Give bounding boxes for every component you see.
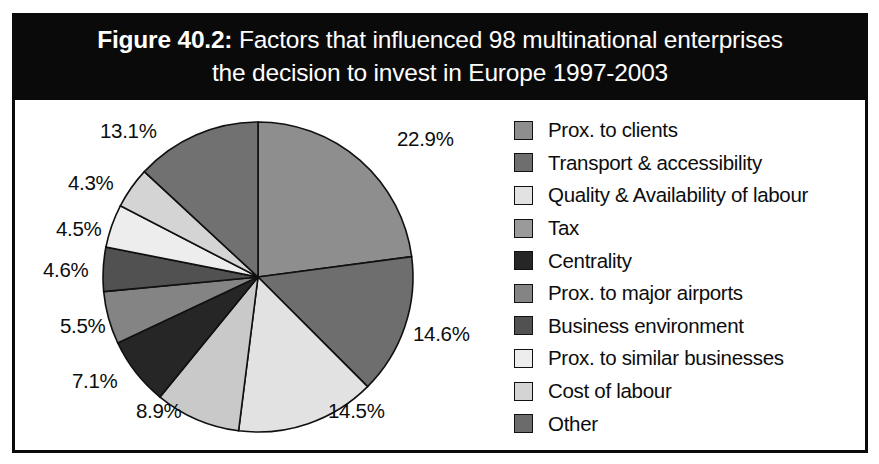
slice-value-label-other: 13.1% [100, 119, 157, 143]
legend-item-label: Prox. to major airports [548, 281, 743, 305]
slice-value-label-quality-availability-labour: 14.5% [328, 399, 385, 423]
pie-chart-area: 22.9% 14.6% 14.5% 8.9% 7.1% 5.5% 4.6% 4.… [12, 100, 512, 453]
figure-root: Figure 40.2: Factors that influenced 98 … [0, 0, 879, 464]
chart-legend: Prox. to clientsTransport & accessibilit… [514, 114, 864, 440]
legend-swatch-icon [514, 382, 533, 401]
figure-title-bar: Figure 40.2: Factors that influenced 98 … [12, 13, 868, 100]
figure-number: Figure 40.2: [97, 26, 232, 53]
legend-item-label: Other [548, 412, 598, 436]
legend-item-label: Prox. to similar businesses [548, 346, 784, 370]
legend-swatch-icon [514, 219, 533, 238]
legend-swatch-icon [514, 186, 533, 205]
legend-item-label: Tax [548, 216, 579, 240]
slice-value-label-transport-accessibility: 14.6% [413, 322, 470, 346]
legend-item: Prox. to clients [514, 114, 864, 147]
legend-swatch-icon [514, 251, 533, 270]
legend-item-label: Business environment [548, 314, 744, 338]
legend-item: Tax [514, 212, 864, 245]
legend-item-label: Cost of labour [548, 379, 671, 403]
legend-item-label: Centrality [548, 249, 632, 273]
legend-item-label: Quality & Availability of labour [548, 183, 808, 207]
legend-swatch-icon [514, 316, 533, 335]
legend-swatch-icon [514, 349, 533, 368]
legend-item-label: Prox. to clients [548, 118, 678, 142]
legend-item: Centrality [514, 244, 864, 277]
legend-item: Cost of labour [514, 375, 864, 408]
slice-value-label-business-environment: 4.6% [43, 258, 89, 282]
legend-swatch-icon [514, 414, 533, 433]
chart-body: 22.9% 14.6% 14.5% 8.9% 7.1% 5.5% 4.6% 4.… [12, 100, 868, 453]
slice-value-label-prox-to-clients: 22.9% [397, 127, 454, 151]
legend-item: Transport & accessibility [514, 147, 864, 180]
legend-item: Prox. to similar businesses [514, 342, 864, 375]
pie-slice [258, 122, 412, 277]
legend-swatch-icon [514, 153, 533, 172]
slice-value-label-tax: 8.9% [136, 399, 182, 423]
legend-item: Other [514, 407, 864, 440]
figure-title-text-1: Factors that influenced 98 multinational… [239, 26, 783, 53]
legend-swatch-icon [514, 121, 533, 140]
legend-swatch-icon [514, 284, 533, 303]
slice-value-label-centrality: 7.1% [72, 369, 118, 393]
legend-item-label: Transport & accessibility [548, 151, 762, 175]
slice-value-label-prox-major-airports: 5.5% [60, 314, 106, 338]
slice-value-label-cost-of-labour: 4.3% [68, 171, 114, 195]
figure-title-line-1: Figure 40.2: Factors that influenced 98 … [97, 23, 783, 56]
legend-item: Prox. to major airports [514, 277, 864, 310]
figure-title-line-2: the decision to invest in Europe 1997-20… [212, 56, 668, 89]
slice-value-label-prox-similar-businesses: 4.5% [56, 217, 102, 241]
pie-slices-group [103, 122, 413, 432]
legend-item: Business environment [514, 310, 864, 343]
legend-item: Quality & Availability of labour [514, 179, 864, 212]
